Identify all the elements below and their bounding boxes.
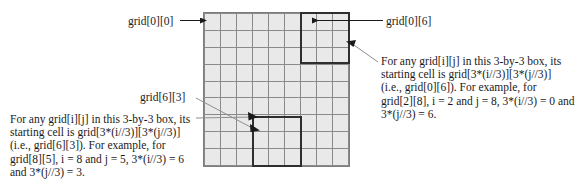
- grid-cell-1-6: [301, 31, 316, 47]
- grid-cell-3-7: [317, 65, 332, 81]
- leader-right-paragraph: [346, 40, 378, 62]
- paragraph-bottom-left-box: For any grid[i][j] in this 3-by-3 box, i…: [10, 113, 196, 179]
- grid-cell-6-7: [317, 115, 332, 131]
- paragraph-line: grid[8][5], i = 8 and j = 5, 3*(i//3) = …: [10, 153, 196, 166]
- grid-cell-6-0: [205, 115, 220, 131]
- paragraph-top-right-box: For any grid[i][j] in this 3-by-3 box, i…: [381, 55, 577, 121]
- grid-cell-3-8: [333, 65, 348, 81]
- grid-cell-6-5: [285, 115, 300, 131]
- grid-cell-5-4: [269, 98, 284, 114]
- grid-cell-1-3: [253, 31, 268, 47]
- grid-cell-3-1: [221, 65, 236, 81]
- grid-cell-4-0: [205, 82, 220, 98]
- grid-cell-7-2: [237, 132, 252, 148]
- grid-cell-6-6: [301, 115, 316, 131]
- grid-cell-1-7: [317, 31, 332, 47]
- grid-cell-7-3: [253, 132, 268, 148]
- paragraph-line: For any grid[i][j] in this 3-by-3 box, i…: [381, 55, 577, 68]
- grid-cell-5-8: [333, 98, 348, 114]
- grid-cell-6-3: [253, 115, 268, 131]
- grid-cell-0-7: [317, 14, 332, 30]
- grid-cell-8-3: [253, 149, 268, 165]
- grid-cell-2-2: [237, 48, 252, 64]
- grid-cell-8-6: [301, 149, 316, 165]
- label-grid-6-3: grid[6][3]: [140, 91, 185, 104]
- grid-cell-2-0: [205, 48, 220, 64]
- grid-cell-6-2: [237, 115, 252, 131]
- grid-cell-7-1: [221, 132, 236, 148]
- label-grid-0-0: grid[0][0]: [128, 15, 173, 28]
- grid-cell-2-6: [301, 48, 316, 64]
- grid-cell-5-3: [253, 98, 268, 114]
- grid-cell-0-5: [285, 14, 300, 30]
- grid-cell-6-8: [333, 115, 348, 131]
- paragraph-line: grid[2][8], i = 2 and j = 8, 3*(i//3) = …: [381, 95, 577, 108]
- grid-cell-7-5: [285, 132, 300, 148]
- grid-cell-1-5: [285, 31, 300, 47]
- grid-cell-2-1: [221, 48, 236, 64]
- grid-cell-5-0: [205, 98, 220, 114]
- grid-cell-7-7: [317, 132, 332, 148]
- paragraph-line: and 3*(j//3) = 3.: [10, 166, 196, 179]
- grid-cell-4-3: [253, 82, 268, 98]
- grid-cell-3-6: [301, 65, 316, 81]
- grid-cell-3-0: [205, 65, 220, 81]
- grid-cell-5-2: [237, 98, 252, 114]
- grid-cell-0-4: [269, 14, 284, 30]
- grid-cell-7-4: [269, 132, 284, 148]
- grid-cell-2-8: [333, 48, 348, 64]
- grid-cell-3-2: [237, 65, 252, 81]
- sudoku-box-diagram: grid[0][0] grid[0][6] grid[6][3] For any…: [0, 0, 578, 183]
- grid-cell-8-5: [285, 149, 300, 165]
- grid-cell-1-8: [333, 31, 348, 47]
- grid-cell-7-8: [333, 132, 348, 148]
- paragraph-line: For any grid[i][j] in this 3-by-3 box, i…: [10, 113, 196, 126]
- label-grid-0-6: grid[0][6]: [386, 15, 431, 28]
- grid-cell-0-1: [221, 14, 236, 30]
- grid-cell-4-5: [285, 82, 300, 98]
- grid-cell-6-4: [269, 115, 284, 131]
- grid-cell-2-4: [269, 48, 284, 64]
- paragraph-line: 3*(j//3) = 6.: [381, 108, 577, 121]
- grid-cell-4-7: [317, 82, 332, 98]
- grid-cell-7-0: [205, 132, 220, 148]
- grid-cell-3-4: [269, 65, 284, 81]
- grid-cell-0-2: [237, 14, 252, 30]
- grid-cell-8-8: [333, 149, 348, 165]
- grid-cell-3-5: [285, 65, 300, 81]
- grid-cell-0-3: [253, 14, 268, 30]
- grid-cell-2-7: [317, 48, 332, 64]
- grid-cell-7-6: [301, 132, 316, 148]
- grid-cell-5-6: [301, 98, 316, 114]
- grid-cell-5-5: [285, 98, 300, 114]
- grid-cell-8-7: [317, 149, 332, 165]
- grid-cell-4-2: [237, 82, 252, 98]
- grid-cell-8-2: [237, 149, 252, 165]
- paragraph-line: starting cell is grid[3*(i//3)][3*(j//3)…: [381, 68, 577, 81]
- paragraph-line: (i.e., grid[6][3]). For example, for: [10, 139, 196, 152]
- grid-cell-1-4: [269, 31, 284, 47]
- grid-cell-8-0: [205, 149, 220, 165]
- grid-cell-4-6: [301, 82, 316, 98]
- grid-cell-0-8: [333, 14, 348, 30]
- paragraph-line: (i.e., grid[0][6]). For example, for: [381, 81, 577, 94]
- paragraph-line: starting cell is grid[3*(i//3)][3*(j//3)…: [10, 126, 196, 139]
- grid-cell-5-7: [317, 98, 332, 114]
- grid-cell-8-4: [269, 149, 284, 165]
- grid-cell-4-1: [221, 82, 236, 98]
- grid-cell-1-0: [205, 31, 220, 47]
- grid-cell-1-2: [237, 31, 252, 47]
- grid-cell-5-1: [221, 98, 236, 114]
- grid-cell-2-3: [253, 48, 268, 64]
- grid-cell-1-1: [221, 31, 236, 47]
- grid-cell-0-6: [301, 14, 316, 30]
- sudoku-grid: [203, 12, 350, 167]
- grid-cell-6-1: [221, 115, 236, 131]
- grid-cell-3-3: [253, 65, 268, 81]
- grid-cell-4-4: [269, 82, 284, 98]
- grid-cell-8-1: [221, 149, 236, 165]
- grid-cell-4-8: [333, 82, 348, 98]
- grid-cell-2-5: [285, 48, 300, 64]
- grid-cell-0-0: [205, 14, 220, 30]
